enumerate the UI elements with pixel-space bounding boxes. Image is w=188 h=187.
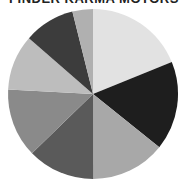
pie-slices [8, 9, 178, 179]
pie-chart [0, 0, 188, 187]
